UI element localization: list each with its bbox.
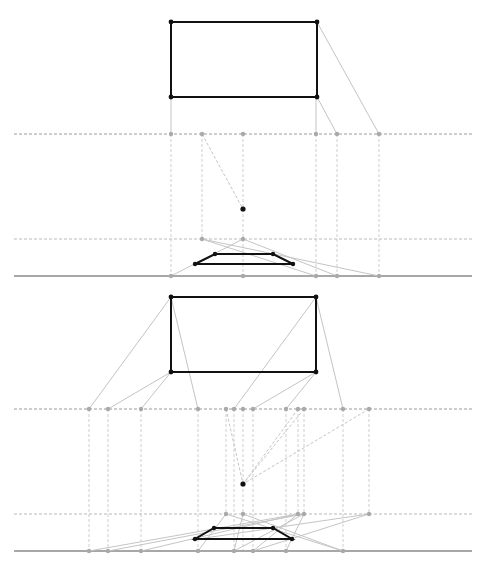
construction-ray: [202, 239, 316, 276]
trapezoid-corner: [193, 262, 197, 266]
bottom-panel: [14, 295, 472, 554]
trapezoid-corner: [213, 252, 217, 256]
horizon-point: [314, 132, 318, 136]
trapezoid-corner: [271, 252, 275, 256]
horizon-point: [232, 407, 236, 411]
horizon-point: [341, 407, 345, 411]
ground-point: [87, 549, 91, 553]
rectangle-corner: [169, 370, 174, 375]
ground-point: [335, 274, 339, 278]
construction-ray: [243, 239, 337, 276]
construction-ray: [253, 372, 316, 409]
construction-ray: [108, 372, 171, 409]
horizon-point: [284, 407, 288, 411]
plan-rectangle: [171, 22, 317, 97]
trapezoid-corner: [212, 526, 216, 530]
horizon-point: [106, 407, 110, 411]
ground-point: [169, 274, 173, 278]
ground-point: [377, 274, 381, 278]
perspective-trapezoid: [195, 254, 293, 264]
plane-point: [241, 237, 245, 241]
horizon-point: [251, 407, 255, 411]
trapezoid-corner: [291, 262, 295, 266]
eye-point: [240, 481, 245, 486]
construction-ray: [286, 514, 304, 551]
construction-ray: [317, 97, 337, 134]
plane-point: [367, 512, 371, 516]
construction-ray: [141, 372, 171, 409]
plane-point: [224, 512, 228, 516]
horizon-point: [139, 407, 143, 411]
construction-ray: [234, 297, 316, 409]
horizon-point: [377, 132, 381, 136]
ground-point: [284, 549, 288, 553]
plane-point: [296, 512, 300, 516]
plan-rectangle: [171, 297, 316, 372]
trapezoid-corner: [290, 537, 294, 541]
construction-ray: [89, 514, 298, 551]
ground-point: [196, 549, 200, 553]
construction-ray: [89, 297, 171, 409]
vanishing-ray: [243, 409, 304, 484]
ground-point: [341, 549, 345, 553]
plane-point: [241, 512, 245, 516]
horizon-point: [296, 407, 300, 411]
vanishing-ray: [243, 409, 298, 484]
horizon-point: [335, 132, 339, 136]
horizon-point: [200, 132, 204, 136]
perspective-construction-diagram: [0, 0, 488, 569]
ground-point: [251, 549, 255, 553]
top-panel: [14, 20, 472, 279]
trapezoid-corner: [193, 537, 197, 541]
construction-ray: [316, 297, 343, 409]
ground-point: [139, 549, 143, 553]
horizon-point: [241, 407, 245, 411]
plane-point: [200, 237, 204, 241]
horizon-point: [302, 407, 306, 411]
rectangle-corner: [315, 20, 320, 25]
horizon-point: [367, 407, 371, 411]
construction-ray: [171, 297, 198, 409]
horizon-point: [169, 132, 173, 136]
rectangle-corner: [314, 295, 319, 300]
vanishing-ray: [202, 134, 243, 209]
rectangle-corner: [315, 95, 320, 100]
trapezoid-corner: [271, 526, 275, 530]
rectangle-corner: [169, 20, 174, 25]
vanishing-ray: [243, 409, 369, 484]
horizon-point: [87, 407, 91, 411]
horizon-point: [241, 132, 245, 136]
rectangle-corner: [169, 95, 174, 100]
plane-point: [302, 512, 306, 516]
ground-point: [314, 274, 318, 278]
construction-ray: [317, 22, 379, 134]
eye-point: [240, 206, 245, 211]
construction-ray: [286, 372, 316, 409]
rectangle-corner: [314, 370, 319, 375]
horizon-point: [224, 407, 228, 411]
construction-ray: [253, 514, 369, 551]
ground-point: [232, 549, 236, 553]
construction-ray: [198, 514, 226, 551]
construction-ray: [141, 514, 298, 551]
ground-point: [241, 274, 245, 278]
rectangle-corner: [169, 295, 174, 300]
ground-point: [106, 549, 110, 553]
horizon-point: [196, 407, 200, 411]
